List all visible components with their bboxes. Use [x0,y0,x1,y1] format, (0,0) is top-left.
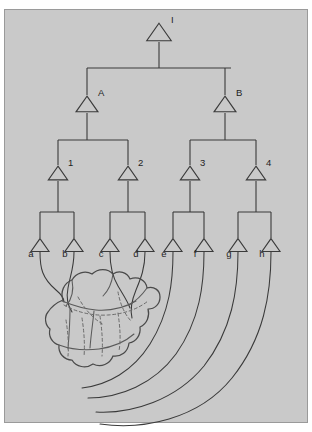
branch-label-B: B [236,87,242,98]
diagram-canvas: IAB1234abcdefgh [0,0,312,432]
branch-label-A: A [98,87,105,98]
branch-label-2: 2 [138,157,143,168]
leaf-label-a: a [28,248,34,259]
figure-root: IAB1234abcdefgh [0,0,312,432]
leaf-label-b: b [62,248,67,259]
leaf-label-h: h [259,248,264,259]
leaf-label-d: d [133,248,138,259]
root-label-I: I [171,14,174,25]
branch-label-3: 3 [200,157,205,168]
leaf-label-g: g [226,248,231,259]
leaf-label-c: c [99,248,104,259]
leaf-label-e: e [161,248,166,259]
leaf-label-f: f [194,248,197,259]
branch-label-4: 4 [266,157,271,168]
figure-plate [4,9,308,423]
branch-label-1: 1 [68,157,73,168]
